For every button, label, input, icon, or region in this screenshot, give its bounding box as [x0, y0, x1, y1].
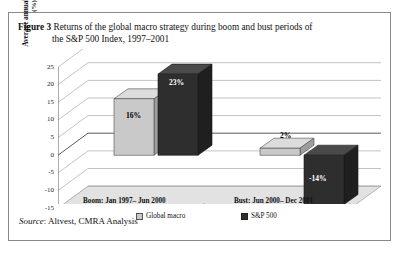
legend-label-sp500: S&P 500 [251, 212, 277, 220]
bar-label-sp500-bust: -14% [309, 174, 327, 183]
chart-plot [58, 49, 381, 204]
y-tick-label: 5 [38, 133, 54, 141]
y-tick-label: -15 [38, 204, 54, 212]
source-word: Source [19, 216, 44, 226]
chart-area: Average annualised return (%) [58, 49, 381, 204]
source-text: : Altvest, CMRA Analysis [44, 216, 138, 226]
y-tick-label: 20 [38, 80, 54, 88]
y-axis-title-unit: (%) [30, 0, 38, 65]
figure-caption: Figure 3 Returns of the global macro str… [18, 21, 380, 45]
y-axis-title: Average annualised return (%) [22, 0, 34, 65]
figure-caption-line1: Returns of the global macro strategy dur… [53, 22, 312, 32]
bar-label-global-macro-bust: 2% [280, 131, 291, 140]
legend-label-global-macro: Global macro [146, 212, 185, 220]
figure-source: Source: Altvest, CMRA Analysis [19, 216, 138, 226]
y-axis-title-text: Average annualised return [21, 0, 30, 47]
y-tick-label: -10 [38, 186, 54, 194]
legend-swatch-sp500-icon [241, 213, 248, 220]
y-tick-label: -5 [38, 168, 54, 176]
bar-label-sp500-boom: 23% [169, 78, 184, 87]
x-category-label-bust: Bust: Jun 2000– Dec 2001 [234, 197, 313, 205]
bar-sp500-boom [158, 64, 212, 155]
y-tick-label: 10 [38, 115, 54, 123]
bar-label-global-macro-boom: 16% [126, 111, 141, 120]
figure-caption-line2: the S&P 500 Index, 1997–2001 [52, 33, 380, 45]
legend-item-sp500: S&P 500 [241, 212, 277, 220]
y-tick-label: 0 [38, 151, 54, 159]
legend-item-global-macro: Global macro [136, 212, 185, 220]
x-category-label-boom: Boom: Jan 1997– Jun 2000 [83, 197, 166, 205]
figure-box: Figure 3 Returns of the global macro str… [8, 12, 391, 241]
y-tick-label: 15 [38, 98, 54, 106]
y-tick-label: 25 [38, 63, 54, 71]
